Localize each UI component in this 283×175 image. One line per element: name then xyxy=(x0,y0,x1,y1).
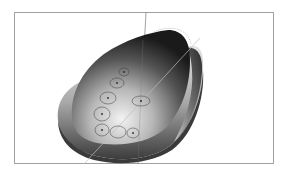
dome-render xyxy=(0,0,283,175)
render-viewport xyxy=(0,0,283,175)
